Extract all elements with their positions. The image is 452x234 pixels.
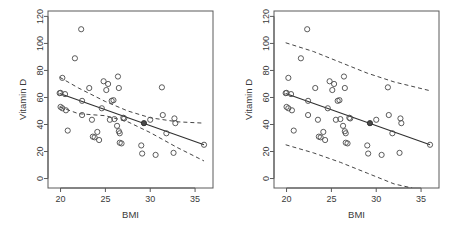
prediction-band-lower: [286, 145, 412, 188]
data-point: [105, 81, 110, 86]
x-tick-label: 35: [190, 194, 200, 204]
data-point: [95, 129, 100, 134]
regression-line: [60, 93, 204, 144]
data-point: [139, 143, 144, 148]
prediction-band-group: [286, 43, 430, 188]
y-tick-label: 0: [261, 176, 271, 181]
data-point: [171, 150, 176, 155]
data-point: [365, 143, 370, 148]
y-tick-label: 60: [35, 92, 45, 102]
x-tick-label: 20: [282, 194, 292, 204]
right-panel-svg: 20253035BMI020406080100120Vitamin D: [226, 0, 452, 234]
y-tick-label: 80: [35, 65, 45, 75]
plot-frame: [274, 11, 439, 188]
y-tick-label: 40: [35, 119, 45, 129]
regression-line: [286, 93, 430, 144]
data-point: [153, 152, 158, 157]
y-axis-title: Vitamin D: [17, 79, 28, 120]
x-tick-label: 25: [100, 194, 110, 204]
data-point: [72, 56, 77, 61]
data-point: [114, 123, 119, 128]
data-point: [379, 152, 384, 157]
data-point-highlighted: [367, 121, 372, 126]
data-point: [160, 112, 165, 117]
confidence-band-upper: [60, 77, 204, 123]
data-point: [79, 27, 84, 32]
data-point: [321, 129, 326, 134]
y-tick-label: 100: [35, 36, 45, 51]
x-tick-label: 35: [416, 194, 426, 204]
data-point: [340, 123, 345, 128]
data-point: [119, 141, 124, 146]
y-tick-label: 0: [35, 176, 45, 181]
data-point: [315, 117, 320, 122]
data-point: [305, 112, 310, 117]
right-plot-group: 20253035BMI020406080100120Vitamin D: [243, 9, 440, 220]
y-tick-label: 20: [35, 147, 45, 157]
left-panel-confidence-band: 20253035BMI020406080100120Vitamin D: [0, 0, 226, 234]
data-point: [89, 117, 94, 122]
y-axis-title: Vitamin D: [243, 79, 254, 120]
left-panel-svg: 20253035BMI020406080100120Vitamin D: [0, 0, 226, 234]
x-tick-label: 30: [371, 194, 381, 204]
data-point: [366, 151, 371, 156]
data-point: [159, 85, 164, 90]
data-point: [87, 85, 92, 90]
data-point: [111, 98, 116, 103]
data-point: [104, 87, 109, 92]
data-point: [342, 85, 347, 90]
x-tick-label: 20: [56, 194, 66, 204]
data-point: [286, 75, 291, 80]
figure-container: 20253035BMI020406080100120Vitamin D 2025…: [0, 0, 452, 234]
x-axis-title: BMI: [348, 209, 365, 220]
data-point: [116, 85, 121, 90]
data-point: [337, 98, 342, 103]
x-tick-label: 25: [326, 194, 336, 204]
data-point: [291, 128, 296, 133]
y-tick-label: 40: [261, 119, 271, 129]
right-panel-prediction-band: 20253035BMI020406080100120Vitamin D: [226, 0, 452, 234]
y-tick-label: 100: [261, 36, 271, 51]
data-point: [79, 112, 84, 117]
data-point: [330, 87, 335, 92]
data-point: [374, 117, 379, 122]
data-point: [140, 151, 145, 156]
data-point: [65, 128, 70, 133]
data-point: [298, 56, 303, 61]
data-point: [331, 81, 336, 86]
data-point: [323, 137, 328, 142]
y-tick-label: 60: [261, 92, 271, 102]
y-tick-label: 80: [261, 65, 271, 75]
left-plot-group: 20253035BMI020406080100120Vitamin D: [17, 9, 214, 220]
plot-frame: [48, 11, 213, 188]
x-tick-label: 30: [145, 194, 155, 204]
data-point: [345, 141, 350, 146]
data-point: [115, 74, 120, 79]
data-point: [386, 112, 391, 117]
data-point: [341, 74, 346, 79]
data-point: [397, 150, 402, 155]
prediction-band-upper: [286, 43, 430, 91]
y-tick-label: 120: [35, 9, 45, 24]
data-point: [97, 137, 102, 142]
x-axis-title: BMI: [122, 209, 139, 220]
data-point: [305, 27, 310, 32]
confidence-band-lower: [60, 107, 204, 161]
data-point: [313, 85, 318, 90]
data-point: [385, 85, 390, 90]
y-tick-label: 20: [261, 147, 271, 157]
data-point-highlighted: [141, 121, 146, 126]
y-tick-label: 120: [261, 9, 271, 24]
